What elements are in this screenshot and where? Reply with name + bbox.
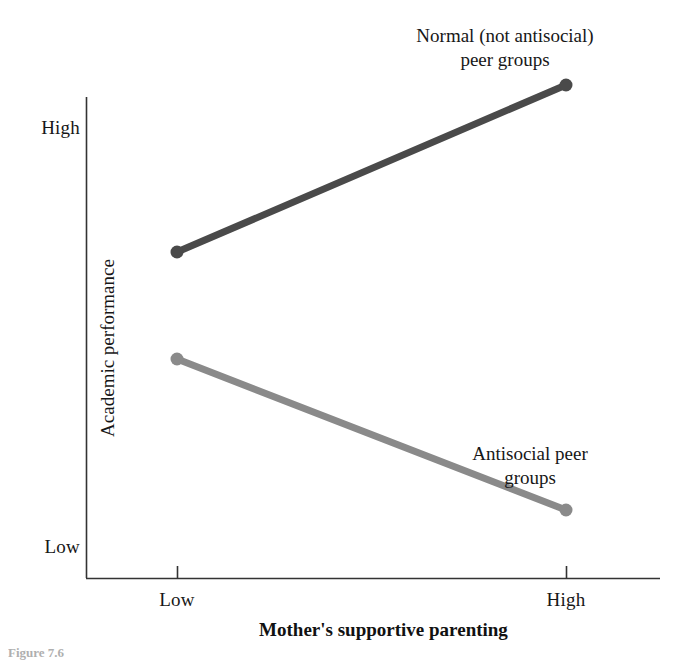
- series-normal-point-high: [560, 79, 573, 92]
- y-axis-tick-label-low: Low: [28, 536, 80, 558]
- series-label-antisocial-peer-groups: Antisocial peer groups: [420, 442, 640, 490]
- series-label-antisocial-line2: groups: [420, 466, 640, 490]
- series-antisocial-point-high: [560, 504, 573, 517]
- series-antisocial-point-low: [171, 353, 184, 366]
- y-axis-title: Academic performance: [97, 198, 119, 498]
- x-axis-tick-label-low: Low: [159, 589, 194, 611]
- series-label-normal-line1: Normal (not antisocial): [340, 24, 670, 48]
- series-normal-line: [177, 85, 566, 252]
- x-axis-tick-label-high: High: [547, 589, 586, 611]
- series-normal-point-low: [171, 246, 184, 259]
- series-label-normal-line2: peer groups: [340, 48, 670, 72]
- series-antisocial-peer-groups: [171, 353, 573, 517]
- series-label-normal-peer-groups: Normal (not antisocial) peer groups: [340, 24, 670, 72]
- figure-caption: Figure 7.6: [8, 645, 64, 661]
- y-axis-tick-label-high: High: [28, 117, 80, 139]
- series-label-antisocial-line1: Antisocial peer: [420, 442, 640, 466]
- x-axis-title: Mother's supportive parenting: [107, 619, 660, 641]
- series-normal-peer-groups: [171, 79, 573, 259]
